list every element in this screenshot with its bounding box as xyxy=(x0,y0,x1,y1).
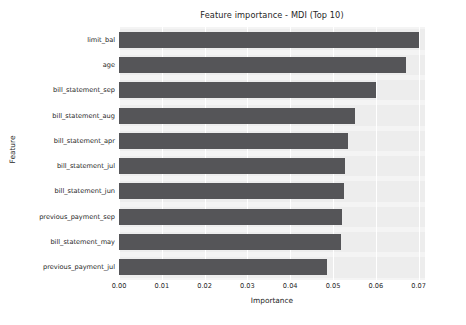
chart-title: Feature importance - MDI (Top 10) xyxy=(119,10,425,20)
y-tick-label: bill_statement_may xyxy=(1,238,115,246)
bar xyxy=(119,209,342,225)
bar xyxy=(119,133,348,149)
y-tick-label: bill_statement_sep xyxy=(1,86,115,94)
bar xyxy=(119,234,341,250)
x-tick-label: 0.04 xyxy=(283,282,298,290)
y-axis-tick-labels: limit_balagebill_statement_sepbill_state… xyxy=(0,27,115,280)
y-axis-label: Feature xyxy=(8,120,17,180)
x-tick-label: 0.07 xyxy=(411,282,426,290)
bar xyxy=(119,183,344,199)
y-tick-label: previous_payment_jul xyxy=(1,263,115,271)
x-axis-label: Importance xyxy=(119,296,425,305)
y-tick-label: previous_payment_sep xyxy=(1,213,115,221)
y-tick-label: bill_statement_jul xyxy=(1,162,115,170)
bar xyxy=(119,32,419,48)
y-tick-label: age xyxy=(1,61,115,69)
x-tick-label: 0.06 xyxy=(368,282,383,290)
x-tick-label: 0.03 xyxy=(240,282,255,290)
chart-figure: Feature importance - MDI (Top 10) limit_… xyxy=(0,0,466,325)
y-tick-label: bill_statement_aug xyxy=(1,112,115,120)
x-tick-label: 0.05 xyxy=(326,282,341,290)
bar xyxy=(119,158,345,174)
plot-area xyxy=(119,27,425,280)
y-tick-label: limit_bal xyxy=(1,36,115,44)
bar xyxy=(119,82,376,98)
x-tick-label: 0.01 xyxy=(154,282,169,290)
gridline-vertical xyxy=(419,27,420,280)
bar xyxy=(119,57,406,73)
y-tick-label: bill_statement_apr xyxy=(1,137,115,145)
bar xyxy=(119,108,355,124)
x-tick-label: 0.02 xyxy=(197,282,212,290)
x-tick-label: 0.00 xyxy=(112,282,127,290)
y-tick-label: bill_statement_jun xyxy=(1,187,115,195)
bar xyxy=(119,259,327,275)
x-axis-tick-labels: 0.000.010.020.030.040.050.060.07 xyxy=(119,282,425,296)
